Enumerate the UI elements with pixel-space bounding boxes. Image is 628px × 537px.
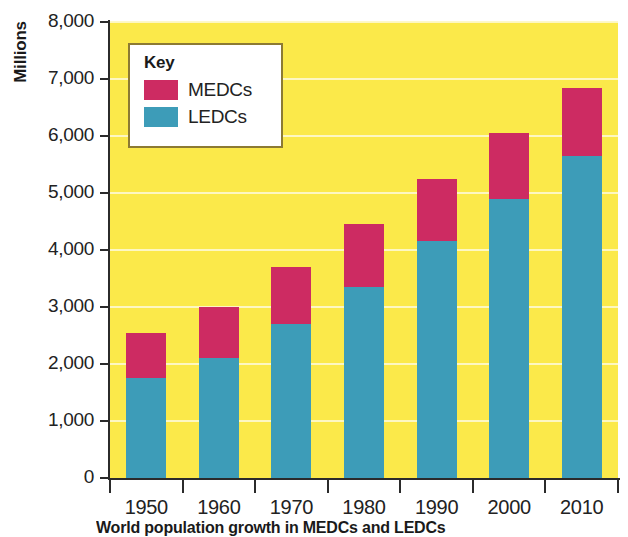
y-axis-label: 0 [84, 466, 94, 488]
x-axis-tick [182, 480, 184, 493]
x-axis-label: 1970 [255, 496, 327, 519]
bar-segment-medc [344, 224, 384, 287]
y-axis-tick [100, 363, 109, 365]
legend-title: Key [144, 53, 281, 73]
x-axis-tick [327, 480, 329, 493]
bar-segment-medc [199, 307, 239, 358]
y-axis-tick [100, 135, 109, 137]
legend-swatch [144, 107, 178, 127]
bar-segment-ledc [417, 241, 457, 478]
legend-item-label: MEDCs [188, 79, 252, 101]
bar-segment-medc [562, 88, 602, 156]
figure-caption: World population growth in MEDCs and LED… [96, 519, 616, 537]
y-axis-tick [100, 21, 109, 23]
bar-segment-ledc [199, 358, 239, 478]
bar-segment-ledc [344, 287, 384, 478]
y-axis-title: Millions [11, 0, 31, 107]
x-axis-label: 1980 [328, 496, 400, 519]
bar-stack [417, 179, 457, 478]
bar-segment-medc [271, 267, 311, 324]
bar-segment-ledc [562, 156, 602, 478]
bar-segment-medc [417, 179, 457, 242]
x-axis-label: 2010 [546, 496, 618, 519]
x-axis-tick [254, 480, 256, 493]
gridline [110, 21, 618, 23]
bar-stack [562, 88, 602, 478]
legend-item: LEDCs [144, 106, 281, 128]
x-axis-label: 1950 [110, 496, 182, 519]
legend-item: MEDCs [144, 79, 281, 101]
y-axis-label: 4,000 [48, 238, 94, 260]
bar-stack [344, 224, 384, 478]
x-axis-tick [399, 480, 401, 493]
y-axis-tick [100, 78, 109, 80]
bar-segment-ledc [489, 199, 529, 478]
y-axis-tick [100, 420, 109, 422]
gridline [110, 192, 618, 194]
y-axis-label: 1,000 [48, 409, 94, 431]
y-axis-tick [100, 477, 109, 479]
legend-key-box: Key MEDCsLEDCs [128, 43, 283, 148]
bar-segment-medc [126, 333, 166, 379]
y-axis-tick [100, 306, 109, 308]
bar-segment-ledc [126, 378, 166, 478]
y-axis-label: 3,000 [48, 295, 94, 317]
y-axis-label: 8,000 [48, 10, 94, 32]
x-axis-tick [617, 480, 619, 493]
x-axis-label: 2000 [473, 496, 545, 519]
y-axis-tick [100, 192, 109, 194]
y-axis-label: 6,000 [48, 124, 94, 146]
bar-segment-ledc [271, 324, 311, 478]
legend-items-group: MEDCsLEDCs [144, 79, 281, 128]
x-axis-tick [544, 480, 546, 493]
bar-stack [489, 133, 529, 478]
legend-swatch [144, 80, 178, 100]
bar-segment-medc [489, 133, 529, 199]
bar-stack [199, 307, 239, 478]
y-axis-tick [100, 249, 109, 251]
y-axis-label: 7,000 [48, 67, 94, 89]
x-axis-label: 1990 [401, 496, 473, 519]
x-axis-tick [109, 480, 111, 493]
x-axis-tick [472, 480, 474, 493]
x-axis-label: 1960 [183, 496, 255, 519]
y-axis-label: 2,000 [48, 352, 94, 374]
bar-stack [271, 267, 311, 478]
y-axis-label: 5,000 [48, 181, 94, 203]
x-axis-line [108, 478, 620, 480]
legend-item-label: LEDCs [188, 106, 247, 128]
bar-stack [126, 333, 166, 478]
